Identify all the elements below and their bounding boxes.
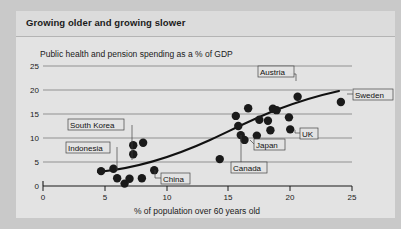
axis-lines (43, 181, 352, 186)
y-tick-0: 0 (35, 182, 40, 191)
x-tick-labels: 0 5 10 15 20 25 (41, 193, 357, 202)
data-point (129, 141, 137, 149)
data-point (240, 136, 248, 144)
annotation-japan: Japan (256, 141, 278, 150)
data-point (109, 165, 117, 173)
data-point (264, 117, 272, 125)
annotation-uk: UK (302, 130, 314, 139)
data-point (139, 139, 147, 147)
data-point (244, 104, 252, 112)
y-tick-5: 5 (35, 158, 40, 167)
data-point (232, 112, 240, 120)
data-point (129, 150, 137, 158)
data-point (253, 131, 261, 139)
data-point (293, 93, 301, 101)
data-point (255, 116, 263, 124)
scatter-plot: 0 5 10 15 20 25 0 5 10 15 20 25 % of pop… (0, 0, 401, 229)
data-point (266, 126, 274, 134)
x-tick-10: 10 (163, 193, 172, 202)
data-points (97, 93, 345, 188)
data-point (97, 167, 105, 175)
x-tick-20: 20 (286, 193, 295, 202)
x-tick-15: 15 (224, 193, 233, 202)
data-point (272, 106, 280, 114)
x-tickmarks (43, 186, 352, 191)
data-point (216, 155, 224, 163)
data-point (286, 125, 294, 133)
annotation-austria: Austria (260, 68, 285, 77)
data-point (125, 175, 133, 183)
x-tick-25: 25 (348, 193, 357, 202)
y-tick-20: 20 (30, 86, 39, 95)
data-point (337, 98, 345, 106)
annotation-south-korea: South Korea (70, 121, 115, 130)
data-point (113, 174, 121, 182)
leader-japan (250, 140, 254, 144)
leader-uk (295, 130, 300, 133)
data-point (234, 122, 242, 130)
annotation-canada: Canada (233, 164, 262, 173)
y-tick-labels: 0 5 10 15 20 25 (30, 62, 39, 191)
data-point (150, 166, 158, 174)
y-tick-25: 25 (30, 62, 39, 71)
x-tick-5: 5 (103, 193, 108, 202)
data-point (138, 174, 146, 182)
annotation-indonesia: Indonesia (68, 144, 103, 153)
y-tick-10: 10 (30, 134, 39, 143)
y-tick-15: 15 (30, 110, 39, 119)
annotation-sweden: Sweden (355, 91, 384, 100)
annotation-china: China (163, 175, 184, 184)
x-axis-title: % of population over 60 years old (134, 206, 260, 216)
data-point (285, 113, 293, 121)
chart-figure: Growing older and growing slower Public … (0, 0, 401, 229)
x-tick-0: 0 (41, 193, 46, 202)
